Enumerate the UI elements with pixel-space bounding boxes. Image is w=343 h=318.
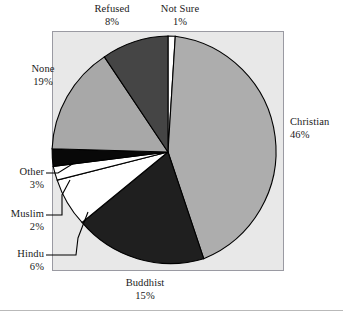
- pie-label-other-value: 3%: [0, 179, 44, 192]
- pie-label-christian-name: Christian: [290, 116, 343, 129]
- pie-label-refused: Refused 8%: [72, 3, 152, 29]
- pie-label-none: None 19%: [14, 63, 72, 89]
- pie-label-buddhist-value: 15%: [105, 290, 185, 303]
- pie-label-hindu: Hindu 6%: [0, 248, 44, 274]
- pie-label-not-sure: Not Sure 1%: [144, 3, 216, 29]
- pie-label-buddhist: Buddhist 15%: [105, 277, 185, 303]
- pie-label-refused-value: 8%: [72, 16, 152, 29]
- pie-label-muslim-value: 2%: [0, 221, 44, 234]
- pie-label-hindu-value: 6%: [0, 261, 44, 274]
- pie-label-other: Other 3%: [0, 166, 44, 192]
- pie-label-not-sure-value: 1%: [144, 16, 216, 29]
- pie-label-refused-name: Refused: [72, 3, 152, 16]
- pie-label-buddhist-name: Buddhist: [105, 277, 185, 290]
- pie-label-muslim-name: Muslim: [0, 208, 44, 221]
- footer-divider: [0, 310, 343, 311]
- figure: Refused 8% Not Sure 1% Christian 46% Non…: [0, 0, 343, 318]
- pie-label-other-name: Other: [0, 166, 44, 179]
- pie-label-none-value: 19%: [14, 76, 72, 89]
- pie-label-none-name: None: [14, 63, 72, 76]
- pie-label-christian-value: 46%: [290, 129, 343, 142]
- pie-label-muslim: Muslim 2%: [0, 208, 44, 234]
- pie-label-hindu-name: Hindu: [0, 248, 44, 261]
- pie-label-not-sure-name: Not Sure: [144, 3, 216, 16]
- pie-chart: [0, 0, 343, 318]
- pie-label-christian: Christian 46%: [290, 116, 343, 142]
